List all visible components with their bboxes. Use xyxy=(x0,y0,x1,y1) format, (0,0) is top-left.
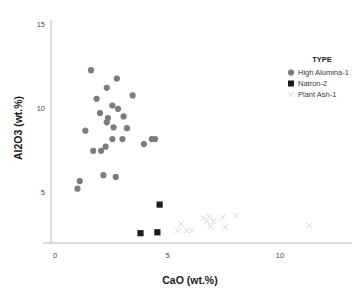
data-point xyxy=(154,229,160,235)
data-points xyxy=(74,67,311,236)
data-point xyxy=(97,110,103,116)
series-plant-ash-1 xyxy=(175,213,312,233)
data-point xyxy=(307,223,312,228)
data-point xyxy=(220,215,225,220)
data-point xyxy=(90,148,96,154)
x-tick-label: 5 xyxy=(165,251,169,260)
data-point xyxy=(100,172,106,178)
data-point xyxy=(204,219,209,224)
data-point xyxy=(109,102,115,108)
y-axis-title: Al2O3 (wt.%) xyxy=(12,96,24,160)
data-point xyxy=(94,96,100,102)
legend-entries: High Alumina-1Natron-2Plant Ash-1 xyxy=(288,68,349,99)
data-point xyxy=(152,136,158,142)
data-point xyxy=(137,230,143,236)
legend-marker-square xyxy=(288,81,294,87)
data-point xyxy=(114,76,120,82)
data-point xyxy=(124,125,130,131)
y-axis: 51015 xyxy=(37,20,51,243)
chart-canvas: 51015 0510 Al2O3 (wt.%) CaO (wt.%) TYPE … xyxy=(0,0,360,296)
data-point xyxy=(113,174,119,180)
y-tick-label: 10 xyxy=(37,104,45,113)
data-point xyxy=(121,113,127,119)
data-point xyxy=(109,136,115,142)
legend-label: Natron-2 xyxy=(298,79,327,88)
data-point xyxy=(103,144,109,150)
data-point xyxy=(222,225,227,230)
y-tick-labels: 51015 xyxy=(37,20,45,197)
data-point xyxy=(74,186,80,192)
data-point xyxy=(104,119,110,125)
series-natron-2 xyxy=(137,202,162,237)
legend-marker-cross xyxy=(288,92,293,97)
legend-label: High Alumina-1 xyxy=(298,68,349,77)
x-axis: 0510 xyxy=(43,243,352,260)
series-high-alumina-1 xyxy=(74,67,158,192)
data-point xyxy=(104,85,110,91)
legend-marker-circle xyxy=(288,69,294,75)
data-point xyxy=(82,128,88,134)
data-point xyxy=(119,136,125,142)
x-tick-labels: 0510 xyxy=(53,251,284,260)
x-tick-label: 0 xyxy=(53,251,57,260)
data-point xyxy=(208,224,213,229)
data-point xyxy=(207,214,212,219)
data-point xyxy=(141,141,147,147)
data-point xyxy=(175,228,180,233)
data-point xyxy=(115,106,121,112)
data-point xyxy=(88,67,94,73)
legend-title: TYPE xyxy=(312,55,332,64)
x-tick-label: 10 xyxy=(276,251,284,260)
x-axis-title: CaO (wt.%) xyxy=(162,274,217,286)
scatter-plot-figure: 51015 0510 Al2O3 (wt.%) CaO (wt.%) TYPE … xyxy=(0,0,360,296)
y-tick-label: 5 xyxy=(41,188,45,197)
data-point xyxy=(77,178,83,184)
data-point xyxy=(211,219,216,224)
legend-label: Plant Ash-1 xyxy=(298,90,336,99)
data-point xyxy=(190,228,195,233)
y-tick-label: 15 xyxy=(37,20,45,29)
data-point xyxy=(234,213,239,218)
data-point xyxy=(157,202,163,208)
data-point xyxy=(130,92,136,98)
data-point xyxy=(110,124,116,130)
data-point xyxy=(184,228,189,233)
data-point xyxy=(178,221,183,226)
legend: TYPE High Alumina-1Natron-2Plant Ash-1 xyxy=(288,55,349,99)
